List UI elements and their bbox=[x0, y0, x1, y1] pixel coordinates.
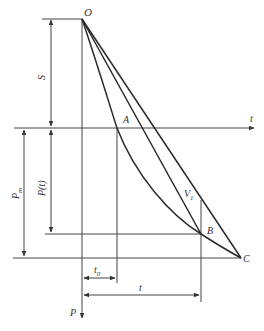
label-b: B bbox=[207, 225, 213, 236]
label-p-axis: P bbox=[69, 307, 76, 318]
label-t: t bbox=[139, 282, 142, 293]
line-ob-v1 bbox=[82, 19, 201, 234]
label-s: S bbox=[36, 75, 47, 80]
label-v1: V1 bbox=[184, 188, 194, 202]
label-t-axis: t bbox=[250, 113, 253, 124]
label-c: C bbox=[243, 253, 250, 264]
label-pt: P(t) bbox=[36, 180, 48, 197]
diagram-canvas: O A B C V1 t P S P(t) Pm t0 t bbox=[0, 0, 264, 331]
label-origin: O bbox=[84, 6, 92, 18]
label-t0: t0 bbox=[94, 264, 101, 278]
label-a: A bbox=[122, 114, 130, 125]
line-oc bbox=[82, 19, 241, 258]
label-pm: Pm bbox=[10, 188, 24, 200]
